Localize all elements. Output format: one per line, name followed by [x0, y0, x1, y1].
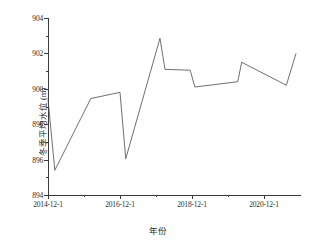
- x-tick: [120, 195, 121, 199]
- x-tick-label: 2016-12-1: [105, 200, 134, 209]
- y-tick-label: 904: [32, 14, 43, 23]
- plot-area: 894896898900902904 2014-12-12016-12-1201…: [48, 18, 300, 195]
- x-tick-label: 2020-12-1: [249, 200, 278, 209]
- series-line-winter-water-level: [48, 38, 296, 170]
- x-tick: [192, 195, 193, 199]
- chart-figure: 冬季平均水位 (m) 894896898900902904 2014-12-12…: [0, 0, 315, 244]
- x-tick-label: 2014-12-1: [33, 200, 62, 209]
- x-tick-label: 2018-12-1: [177, 200, 206, 209]
- y-tick-label: 894: [32, 191, 43, 200]
- y-tick-label: 898: [32, 120, 43, 129]
- x-tick: [264, 195, 265, 199]
- x-tick-minor: [156, 195, 157, 197]
- x-tick-minor: [84, 195, 85, 197]
- x-tick-minor: [228, 195, 229, 197]
- series-plot: [48, 18, 300, 195]
- y-tick-label: 896: [32, 155, 43, 164]
- x-tick: [48, 195, 49, 199]
- x-axis-title: 年份: [0, 224, 315, 236]
- y-tick-label: 900: [32, 84, 43, 93]
- y-tick-label: 902: [32, 49, 43, 58]
